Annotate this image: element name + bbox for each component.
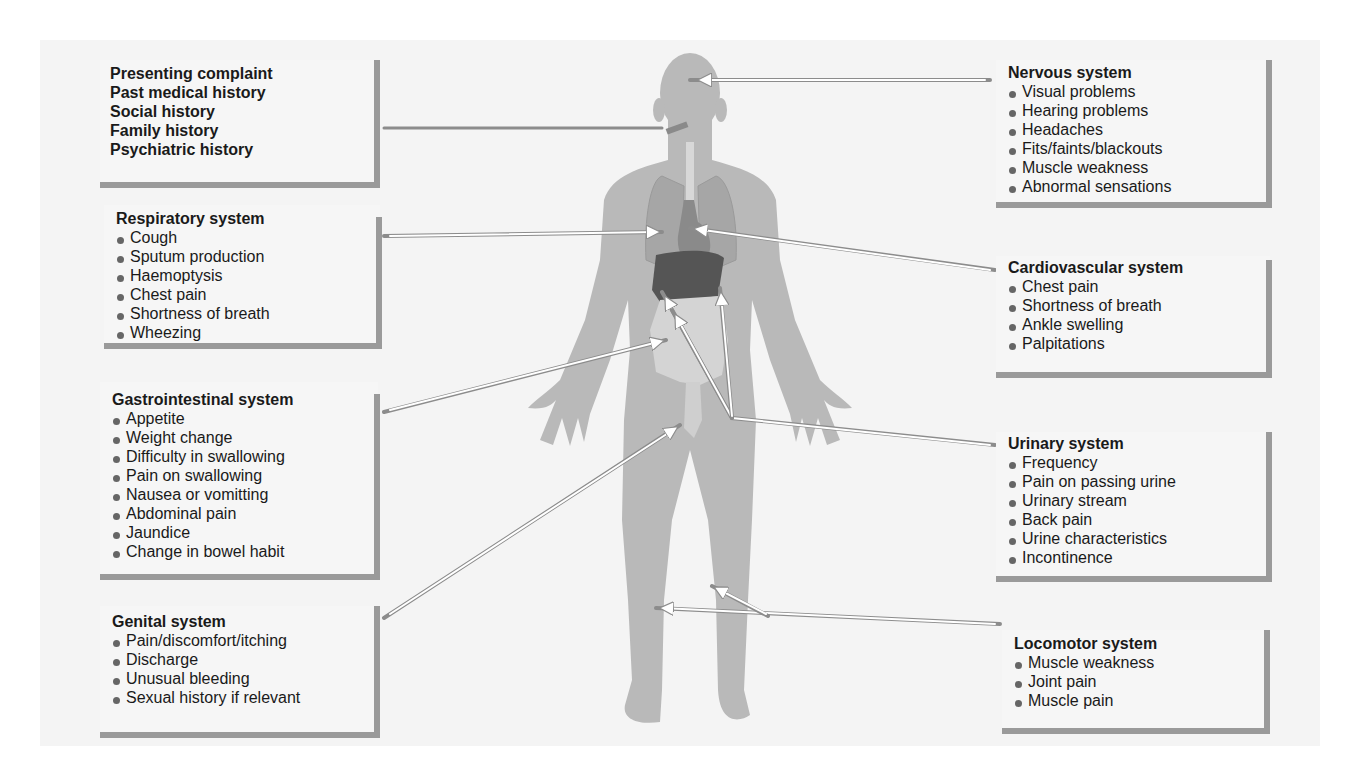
list-item: Sexual history if relevant xyxy=(112,688,366,707)
list-item: Discharge xyxy=(112,650,366,669)
list-item: Sputum production xyxy=(116,247,368,266)
box-title: Gastrointestinal system xyxy=(112,390,366,409)
box-shadow-right xyxy=(374,606,380,738)
list-item: Joint pain xyxy=(1014,672,1256,691)
history-item: Psychiatric history xyxy=(110,140,366,159)
symptom-list: Visual problems Hearing problems Headach… xyxy=(1008,82,1258,196)
symptom-list: Appetite Weight change Difficulty in swa… xyxy=(112,409,366,561)
box-shadow-bottom xyxy=(104,343,382,349)
history-item: Family history xyxy=(110,121,366,140)
bullet-icon xyxy=(117,237,124,244)
history-item: Past medical history xyxy=(110,83,366,102)
list-item: Haemoptysis xyxy=(116,266,368,285)
box-title: Nervous system xyxy=(1008,63,1258,82)
list-item: Pain on passing urine xyxy=(1008,472,1258,491)
list-item: Change in bowel habit xyxy=(112,542,366,561)
bullet-icon xyxy=(113,640,120,647)
bullet-icon xyxy=(117,313,124,320)
list-item: Headaches xyxy=(1008,120,1258,139)
box-shadow-bottom xyxy=(100,182,380,188)
bullet-icon xyxy=(1009,462,1016,469)
bullet-icon xyxy=(1009,91,1016,98)
urinary-system-box: Urinary system Frequency Pain on passing… xyxy=(996,432,1270,576)
list-item: Pain on swallowing xyxy=(112,466,366,485)
bullet-icon xyxy=(113,494,120,501)
list-item: Cough xyxy=(116,228,368,247)
list-item: Visual problems xyxy=(1008,82,1258,101)
history-item: Social history xyxy=(110,102,366,121)
list-item: Pain/discomfort/itching xyxy=(112,631,366,650)
bullet-icon xyxy=(117,294,124,301)
list-item: Chest pain xyxy=(116,285,368,304)
bullet-icon xyxy=(113,475,120,482)
box-shadow-bottom xyxy=(100,732,380,738)
symptom-list: Chest pain Shortness of breath Ankle swe… xyxy=(1008,277,1258,353)
bullet-icon xyxy=(113,697,120,704)
list-item: Muscle weakness xyxy=(1014,653,1256,672)
list-item: Shortness of breath xyxy=(1008,296,1258,315)
list-item: Palpitations xyxy=(1008,334,1258,353)
bullet-icon xyxy=(1009,110,1016,117)
bullet-icon xyxy=(1009,186,1016,193)
bullet-icon xyxy=(1009,286,1016,293)
genital-system-box: Genital system Pain/discomfort/itching D… xyxy=(100,606,378,732)
box-shadow-right xyxy=(374,394,380,580)
list-item: Back pain xyxy=(1008,510,1258,529)
symptom-list: Frequency Pain on passing urine Urinary … xyxy=(1008,453,1258,567)
bullet-icon xyxy=(113,456,120,463)
bullet-icon xyxy=(1015,700,1022,707)
bullet-icon xyxy=(1009,557,1016,564)
list-item: Appetite xyxy=(112,409,366,428)
list-item: Chest pain xyxy=(1008,277,1258,296)
box-shadow-bottom xyxy=(996,202,1272,208)
box-shadow-bottom xyxy=(1002,728,1270,734)
bullet-icon xyxy=(117,256,124,263)
cardiovascular-system-box: Cardiovascular system Chest pain Shortne… xyxy=(996,256,1270,372)
box-shadow-right xyxy=(376,217,382,349)
bullet-icon xyxy=(1015,681,1022,688)
bullet-icon xyxy=(113,418,120,425)
box-shadow-bottom xyxy=(996,576,1272,582)
bullet-icon xyxy=(1009,148,1016,155)
box-shadow-right xyxy=(1266,60,1272,208)
bullet-icon xyxy=(1009,538,1016,545)
bullet-icon xyxy=(1009,129,1016,136)
gastrointestinal-system-box: Gastrointestinal system Appetite Weight … xyxy=(100,382,378,574)
bullet-icon xyxy=(1009,343,1016,350)
box-title: Urinary system xyxy=(1008,434,1258,453)
list-item: Wheezing xyxy=(116,323,368,342)
bullet-icon xyxy=(117,332,124,339)
box-title: Cardiovascular system xyxy=(1008,258,1258,277)
bullet-icon xyxy=(1009,519,1016,526)
bullet-icon xyxy=(113,532,120,539)
list-item: Incontinence xyxy=(1008,548,1258,567)
bullet-icon xyxy=(1009,324,1016,331)
list-item: Fits/faints/blackouts xyxy=(1008,139,1258,158)
bullet-icon xyxy=(1009,305,1016,312)
list-item: Abnormal sensations xyxy=(1008,177,1258,196)
list-item: Ankle swelling xyxy=(1008,315,1258,334)
list-item: Muscle pain xyxy=(1014,691,1256,710)
symptom-list: Cough Sputum production Haemoptysis Ches… xyxy=(116,228,368,342)
bullet-icon xyxy=(1009,500,1016,507)
respiratory-system-box: Respiratory system Cough Sputum producti… xyxy=(104,205,380,343)
box-title: Genital system xyxy=(112,612,366,631)
box-shadow-right xyxy=(374,60,380,188)
bullet-icon xyxy=(1009,167,1016,174)
bullet-icon xyxy=(113,551,120,558)
list-item: Frequency xyxy=(1008,453,1258,472)
list-item: Urinary stream xyxy=(1008,491,1258,510)
bullet-icon xyxy=(113,659,120,666)
list-item: Jaundice xyxy=(112,523,366,542)
locomotor-system-box: Locomotor system Muscle weakness Joint p… xyxy=(1002,630,1268,728)
box-shadow-right xyxy=(1266,260,1272,378)
bullet-icon xyxy=(1009,481,1016,488)
box-shadow-right xyxy=(1264,630,1270,734)
history-box: Presenting complaint Past medical histor… xyxy=(100,60,378,182)
list-item: Muscle weakness xyxy=(1008,158,1258,177)
list-item: Unusual bleeding xyxy=(112,669,366,688)
box-shadow-right xyxy=(1266,432,1272,582)
list-item: Weight change xyxy=(112,428,366,447)
list-item: Urine characteristics xyxy=(1008,529,1258,548)
history-item: Presenting complaint xyxy=(110,64,366,83)
